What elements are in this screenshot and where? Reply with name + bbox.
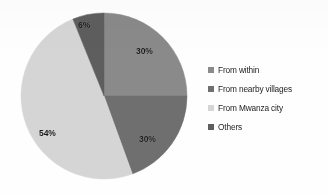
pie-plot-area: 30%30%54%6% <box>0 0 205 194</box>
pie-slice-value-label: 6% <box>78 20 90 30</box>
legend-item-label: From within <box>218 65 259 75</box>
legend-item-label: Others <box>218 122 242 132</box>
square-swatch-icon <box>208 86 214 92</box>
legend-item[interactable]: From Mwanza city <box>208 98 326 117</box>
square-swatch-icon <box>208 105 214 111</box>
pie-chart-figure: 30%30%54%6% From withinFrom nearby villa… <box>0 0 328 194</box>
legend-item-label: From Mwanza city <box>218 103 283 113</box>
legend-item[interactable]: From within <box>208 60 326 79</box>
pie-slice-value-label: 30% <box>136 46 153 56</box>
square-swatch-icon <box>208 124 214 130</box>
pie-slices-group <box>21 13 187 179</box>
legend-item-label: From nearby villages <box>218 84 292 94</box>
chart-legend: From withinFrom nearby villagesFrom Mwan… <box>208 60 326 136</box>
pie-slice-value-label: 54% <box>39 128 56 138</box>
pie-slice-value-label: 30% <box>139 134 156 144</box>
legend-item[interactable]: From nearby villages <box>208 79 326 98</box>
pie-svg <box>0 0 205 194</box>
legend-item[interactable]: Others <box>208 117 326 136</box>
square-swatch-icon <box>208 67 214 73</box>
